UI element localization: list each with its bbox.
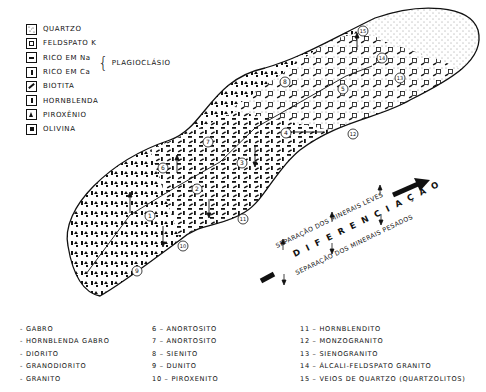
point-15: 15 bbox=[358, 26, 368, 36]
rock-item: 6 – ANORTOSITO bbox=[152, 325, 218, 337]
magma-body bbox=[0, 0, 486, 300]
point-3: 3 bbox=[237, 158, 247, 168]
svg-text:8: 8 bbox=[283, 78, 287, 85]
svg-text:13: 13 bbox=[397, 75, 403, 81]
svg-text:4: 4 bbox=[284, 129, 288, 136]
point-5: 5 bbox=[338, 84, 348, 94]
point-13: 13 bbox=[395, 73, 405, 83]
rock-item: 11 – HORNBLENDITO bbox=[300, 325, 466, 337]
rock-item: - DIORITO bbox=[20, 350, 110, 362]
rock-item: 8 – SIENITO bbox=[152, 350, 218, 362]
rock-item: 15 – VEIOS DE QUARTZO (QUARTZOLITOS) bbox=[300, 375, 466, 387]
rock-item: - GRANITO bbox=[20, 375, 110, 387]
rock-item: 7 – ANORTOSITO bbox=[152, 337, 218, 349]
point-14: 14 bbox=[377, 53, 387, 63]
point-9: 9 bbox=[132, 266, 142, 276]
svg-text:12: 12 bbox=[350, 131, 356, 137]
svg-text:2: 2 bbox=[195, 185, 199, 192]
point-1: 1 bbox=[145, 211, 155, 221]
rock-item: - GABRO bbox=[20, 325, 110, 337]
rock-item: 10 – PIROXENITO bbox=[152, 375, 218, 387]
rock-list-col1: - GABRO - HORNBLENDA GABRO - DIORITO - G… bbox=[20, 325, 110, 387]
rock-list-col3: 11 – HORNBLENDITO 12 – MONZOGRANITO 13 –… bbox=[300, 325, 466, 387]
point-8: 8 bbox=[280, 77, 290, 87]
differentiation-diagram: 1 2 3 4 5 6 7 8 9 10 11 12 13 14 15 SEPA… bbox=[0, 0, 486, 300]
svg-text:7: 7 bbox=[206, 138, 210, 145]
rock-item: - GRANODIORITO bbox=[20, 362, 110, 374]
differentiation-label: D I F E R E N C I A Ç Ã O bbox=[291, 179, 442, 259]
svg-text:14: 14 bbox=[379, 55, 385, 61]
point-4: 4 bbox=[281, 128, 291, 138]
rock-list-col2: 6 – ANORTOSITO 7 – ANORTOSITO 8 – SIENIT… bbox=[152, 325, 218, 387]
rock-item: 9 – DUNITO bbox=[152, 362, 218, 374]
svg-text:3: 3 bbox=[240, 159, 244, 166]
point-10: 10 bbox=[178, 241, 188, 251]
rock-item: - HORNBLENDA GABRO bbox=[20, 337, 110, 349]
svg-text:10: 10 bbox=[180, 243, 186, 249]
rock-item: 14 – ÁLCALI-FELDSPATO GRANITO bbox=[300, 362, 466, 374]
point-7: 7 bbox=[203, 137, 213, 147]
point-11: 11 bbox=[238, 214, 248, 224]
svg-text:15: 15 bbox=[360, 28, 366, 34]
point-6: 6 bbox=[158, 163, 168, 173]
svg-text:6: 6 bbox=[161, 164, 165, 171]
svg-text:9: 9 bbox=[135, 267, 139, 274]
rock-item: 12 – MONZOGRANITO bbox=[300, 337, 466, 349]
svg-text:11: 11 bbox=[240, 216, 246, 222]
svg-text:5: 5 bbox=[341, 85, 345, 92]
rock-item: 13 – SIENOGRANITO bbox=[300, 350, 466, 362]
svg-text:1: 1 bbox=[148, 212, 152, 219]
differentiation-tail-bar bbox=[261, 274, 274, 281]
point-2: 2 bbox=[192, 184, 202, 194]
point-12: 12 bbox=[348, 129, 358, 139]
